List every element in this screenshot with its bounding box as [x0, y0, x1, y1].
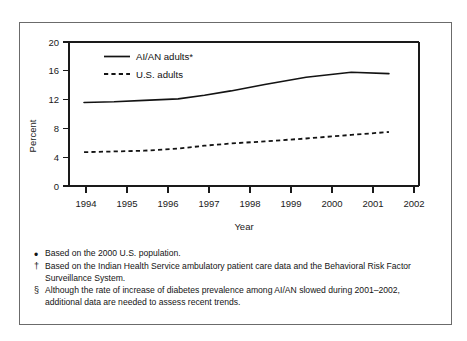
y-tick-label-20: 20 — [48, 37, 59, 48]
y-tick-label-12: 12 — [48, 94, 59, 105]
y-tick-label-8: 8 — [54, 123, 59, 134]
y-axis-title: Percent — [27, 119, 38, 152]
y-axis-ticks: 20 16 12 8 4 0 — [48, 37, 69, 192]
y-tick-label-4: 4 — [54, 152, 59, 163]
footnote-marker-dagger: † — [34, 261, 45, 273]
chart-plot-region: Percent 20 16 12 8 4 0 — [20, 23, 453, 238]
series-line-ai-an — [84, 72, 389, 102]
footnote-text-section: Although the rate of increase of diabete… — [45, 285, 439, 308]
y-tick-label-0: 0 — [54, 181, 59, 192]
chart-legend: AI/AN adults* U.S. adults — [104, 51, 193, 80]
x-tick-label-1995: 1995 — [116, 198, 137, 209]
footnote-item: • Based on the 2000 U.S. population. — [34, 248, 439, 260]
x-tick-label-1997: 1997 — [198, 198, 219, 209]
footnote-text-asterisk: Based on the 2000 U.S. population. — [45, 248, 439, 260]
x-tick-label-2000: 2000 — [321, 198, 342, 209]
footnote-item: † Based on the Indian Health Service amb… — [34, 261, 439, 284]
x-tick-label-1999: 1999 — [280, 198, 301, 209]
x-tick-label-2001: 2001 — [362, 198, 383, 209]
legend-label-ai-an: AI/AN adults* — [136, 51, 193, 62]
x-tick-label-1994: 1994 — [75, 198, 96, 209]
x-tick-label-1998: 1998 — [239, 198, 260, 209]
footnote-marker-section: § — [34, 285, 45, 297]
series-line-us-adults — [84, 132, 389, 152]
line-chart: Percent 20 16 12 8 4 0 — [20, 23, 453, 238]
x-tick-label-1996: 1996 — [157, 198, 178, 209]
footnote-text-dagger: Based on the Indian Health Service ambul… — [45, 261, 439, 284]
y-tick-label-16: 16 — [48, 65, 59, 76]
x-axis-title: Year — [234, 221, 253, 232]
legend-label-us-adults: U.S. adults — [136, 69, 183, 80]
x-axis-ticks: 1994 1995 1996 1997 1998 1999 2000 2001 … — [75, 186, 424, 209]
footnote-marker-asterisk: • — [34, 248, 45, 260]
footnote-item: § Although the rate of increase of diabe… — [34, 285, 439, 308]
x-tick-label-2002: 2002 — [403, 198, 424, 209]
figure-frame: Percent 20 16 12 8 4 0 — [19, 22, 452, 325]
footnotes-block: • Based on the 2000 U.S. population. † B… — [20, 238, 453, 309]
